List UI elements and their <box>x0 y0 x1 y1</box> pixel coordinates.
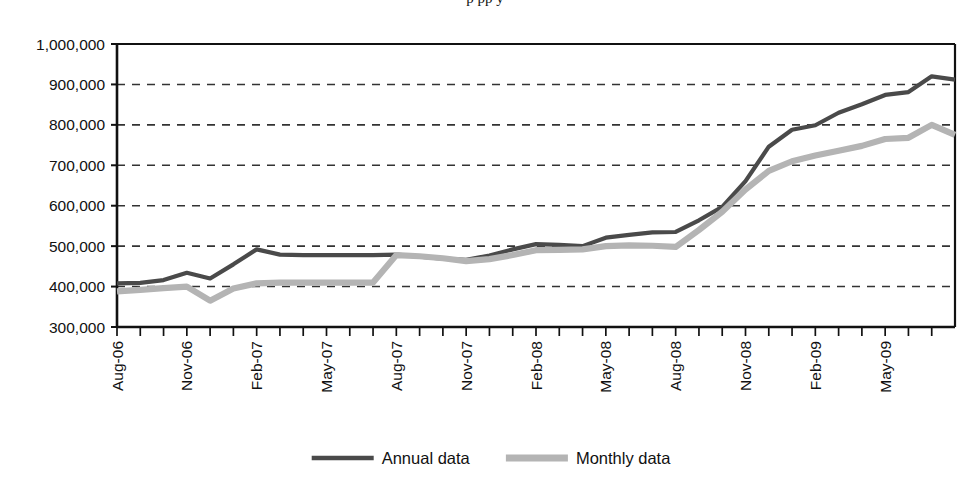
x-tick-label: Nov-06 <box>178 341 195 391</box>
x-tick-label: Feb-09 <box>807 341 824 390</box>
y-tick-label: 900,000 <box>49 76 105 93</box>
x-tick-label: Aug-06 <box>109 341 126 391</box>
x-tick-label: Nov-08 <box>737 341 754 391</box>
x-tick-label: Feb-08 <box>528 341 545 390</box>
chart-figure: p pp y 1,000,000900,000800,000700,000600… <box>0 0 970 481</box>
y-tick-label: 1,000,000 <box>36 36 105 53</box>
y-tick-label: 300,000 <box>49 319 105 336</box>
x-axis-tick-labels: Aug-06Nov-06Feb-07May-07Aug-07Nov-07Feb-… <box>109 341 894 393</box>
x-tick-label: May-08 <box>597 341 614 393</box>
x-axis-ticks <box>117 327 932 336</box>
x-tick-label: Aug-07 <box>388 341 405 391</box>
data-series-group <box>117 76 955 300</box>
y-axis-tick-labels: 1,000,000900,000800,000700,000600,000500… <box>36 36 105 336</box>
x-tick-label: Aug-08 <box>667 341 684 391</box>
y-tick-label: 600,000 <box>49 197 105 214</box>
x-tick-label: May-09 <box>877 341 894 393</box>
y-tick-label: 800,000 <box>49 116 105 133</box>
partial-title-strip: p pp y <box>0 0 970 14</box>
y-tick-label: 400,000 <box>49 278 105 295</box>
x-tick-label: Feb-07 <box>248 341 265 390</box>
x-tick-label: May-07 <box>318 341 335 393</box>
legend-label: Monthly data <box>576 449 671 467</box>
y-tick-label: 500,000 <box>49 238 105 255</box>
partial-title-text: p pp y <box>466 0 504 6</box>
y-tick-label: 700,000 <box>49 157 105 174</box>
chart-legend: Annual dataMonthly data <box>312 449 671 467</box>
x-tick-label: Nov-07 <box>458 341 475 391</box>
line-chart: 1,000,000900,000800,000700,000600,000500… <box>0 0 970 481</box>
legend-label: Annual data <box>382 449 471 467</box>
series-line-monthly-data <box>117 125 955 301</box>
